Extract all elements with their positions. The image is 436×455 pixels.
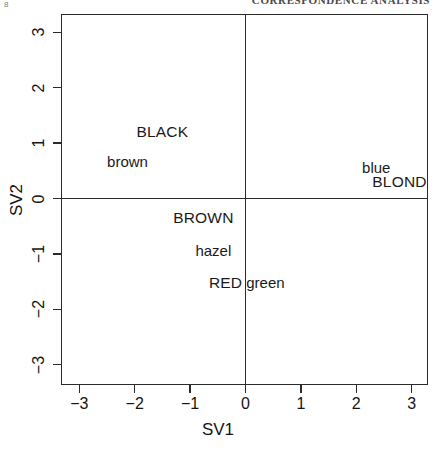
point-label-hazel: hazel	[195, 243, 231, 258]
x-tick-label-5: 2	[336, 395, 376, 413]
y-axis-title: SV2	[7, 160, 27, 240]
page-corner-mark: 8	[4, 0, 13, 9]
y-tick-label-5: 2	[30, 77, 48, 99]
x-tick-1	[134, 385, 135, 393]
zero-line-horizontal	[61, 198, 428, 199]
x-tick-6	[411, 385, 412, 393]
y-tick-label-0: −3	[30, 354, 48, 376]
y-tick-3	[53, 198, 61, 199]
y-tick-label-4: 1	[30, 132, 48, 154]
y-tick-0	[53, 364, 61, 365]
x-tick-label-0: −3	[59, 395, 99, 413]
y-tick-label-2: −1	[30, 243, 48, 265]
point-label-red: RED	[209, 275, 242, 290]
point-label-blond: BLOND	[372, 174, 426, 189]
chart-page: 8 CORRESPONDENCE ANALYSIS −3−2−10123 −3−…	[0, 0, 436, 455]
y-tick-1	[53, 309, 61, 310]
point-label-green: green	[246, 275, 284, 290]
x-tick-0	[79, 385, 80, 393]
x-tick-label-6: 3	[392, 395, 432, 413]
x-tick-label-3: 0	[226, 395, 266, 413]
y-tick-2	[53, 253, 61, 254]
y-tick-4	[53, 142, 61, 143]
y-tick-label-6: 3	[30, 21, 48, 43]
x-tick-label-2: −1	[170, 395, 210, 413]
y-tick-label-1: −2	[30, 298, 48, 320]
y-tick-label-3: 0	[30, 188, 48, 210]
x-tick-2	[189, 385, 190, 393]
x-tick-4	[300, 385, 301, 393]
point-label-brown: BROWN	[173, 209, 233, 224]
point-label-brown: brown	[107, 154, 148, 169]
y-tick-6	[53, 32, 61, 33]
x-tick-3	[245, 385, 246, 393]
x-tick-5	[356, 385, 357, 393]
zero-line-vertical	[245, 14, 246, 385]
x-tick-label-4: 1	[281, 395, 321, 413]
point-label-black: BLACK	[136, 123, 188, 138]
running-head: CORRESPONDENCE ANALYSIS	[252, 0, 430, 5]
y-tick-5	[53, 87, 61, 88]
x-axis-title: SV1	[0, 420, 436, 440]
x-tick-label-1: −2	[115, 395, 155, 413]
